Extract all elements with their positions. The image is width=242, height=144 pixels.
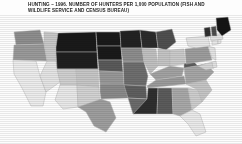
state-vt bbox=[204, 27, 211, 37]
state-ca bbox=[13, 60, 46, 106]
hunting-map-figure: HUNTING – 1996. NUMBER OF HUNTERS PER 1,… bbox=[0, 0, 242, 144]
state-al bbox=[157, 88, 173, 114]
state-ia bbox=[121, 48, 144, 62]
state-oh bbox=[170, 49, 185, 66]
state-nh bbox=[211, 26, 217, 36]
state-pa bbox=[185, 46, 212, 64]
state-mt bbox=[56, 32, 97, 52]
us-choropleth-map bbox=[0, 14, 242, 144]
state-in bbox=[158, 49, 170, 66]
state-mo bbox=[123, 62, 148, 86]
us-map-svg bbox=[0, 14, 242, 144]
state-ut bbox=[57, 69, 77, 85]
figure-title-line-2: WILDLIFE SERVICE AND CENSUS BUREAU) bbox=[28, 8, 234, 14]
state-wi bbox=[140, 30, 158, 48]
state-ok bbox=[100, 84, 128, 99]
state-sd bbox=[97, 46, 122, 60]
state-me bbox=[216, 17, 231, 36]
state-or bbox=[13, 44, 47, 61]
state-de bbox=[212, 61, 217, 68]
state-fl bbox=[180, 110, 206, 136]
state-ne bbox=[98, 60, 123, 72]
figure-title-line-1: HUNTING – 1996. NUMBER OF HUNTERS PER 1,… bbox=[28, 2, 234, 8]
state-wy bbox=[56, 52, 98, 69]
state-ar bbox=[124, 85, 147, 99]
state-mn bbox=[120, 30, 142, 48]
state-az bbox=[55, 85, 78, 109]
state-mi bbox=[156, 29, 176, 50]
figure-title: HUNTING – 1996. NUMBER OF HUNTERS PER 1,… bbox=[28, 2, 234, 13]
states-layer bbox=[13, 17, 231, 136]
state-co bbox=[76, 69, 99, 87]
state-ks bbox=[99, 71, 124, 85]
state-nd bbox=[96, 32, 121, 46]
state-wa bbox=[14, 30, 44, 45]
state-ny bbox=[186, 36, 210, 48]
